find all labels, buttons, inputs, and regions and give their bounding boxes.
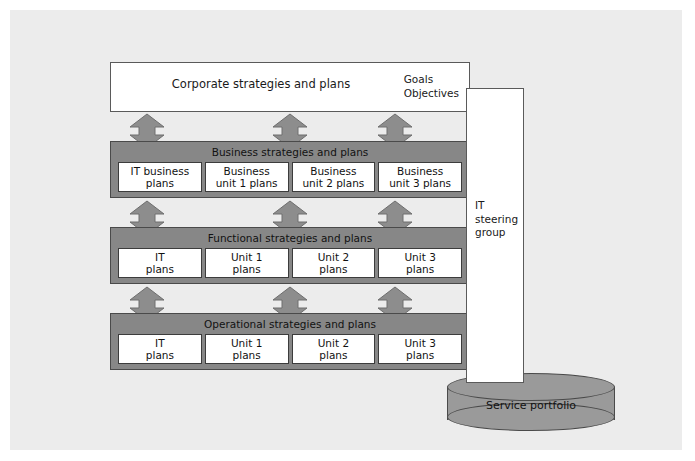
plan-cell-line1: Unit 1 (231, 337, 262, 350)
plan-cell-line1: Business (310, 165, 356, 178)
operational-strategies-cells: IT plans Unit 1 plans Unit 2 plans Unit … (118, 334, 462, 364)
business-strategies-band: Business strategies and plans IT busines… (110, 141, 470, 198)
functional-strategies-cells: IT plans Unit 1 plans Unit 2 plans Unit … (118, 248, 462, 278)
plan-cell-line2: plans (233, 349, 261, 362)
goals-text: Goals (404, 73, 459, 87)
plan-cell-line1: Unit 1 (231, 251, 262, 264)
plan-cell: IT plans (118, 334, 202, 364)
plan-cell-line2: plans (233, 263, 261, 276)
plan-cell-line2: plans (146, 177, 174, 190)
plan-cell-line2: plans (319, 349, 347, 362)
plan-cell: Unit 3 plans (378, 334, 462, 364)
plan-cell-line1: Unit 3 (404, 337, 435, 350)
plan-cell-line1: Business (397, 165, 443, 178)
objectives-text: Objectives (404, 87, 459, 101)
service-portfolio-label: Service portfolio (447, 399, 615, 412)
plan-cell-line1: Unit 3 (404, 251, 435, 264)
plan-cell: Unit 1 plans (205, 334, 289, 364)
plan-cell: IT business plans (118, 162, 202, 192)
it-steering-group-label: IT steering group (475, 199, 518, 240)
plan-cell: Unit 1 plans (205, 248, 289, 278)
goals-objectives-label: Goals Objectives (404, 73, 459, 100)
plan-cell-line2: plans (146, 349, 174, 362)
corporate-strategies-box: Corporate strategies and plans Goals Obj… (110, 62, 470, 112)
steering-line1: IT (475, 199, 518, 213)
plan-cell: Business unit 1 plans (205, 162, 289, 192)
plan-cell-line1: IT business (131, 165, 190, 178)
business-strategies-cells: IT business plans Business unit 1 plans … (118, 162, 462, 192)
plan-cell-line2: plans (406, 349, 434, 362)
functional-strategies-band: Functional strategies and plans IT plans… (110, 227, 470, 284)
plan-cell-line2: plans (319, 263, 347, 276)
plan-cell-line2: unit 3 plans (389, 177, 451, 190)
plan-cell: Unit 3 plans (378, 248, 462, 278)
it-steering-group-box: IT steering group (466, 88, 524, 383)
corporate-strategies-title: Corporate strategies and plans (111, 77, 411, 91)
operational-strategies-title: Operational strategies and plans (111, 318, 469, 330)
steering-line2: steering (475, 213, 518, 227)
functional-strategies-title: Functional strategies and plans (111, 232, 469, 244)
diagram-canvas: Corporate strategies and plans Goals Obj… (10, 10, 682, 450)
plan-cell: Business unit 3 plans (378, 162, 462, 192)
plan-cell-line1: IT (155, 337, 165, 350)
plan-cell-line2: plans (146, 263, 174, 276)
operational-strategies-band: Operational strategies and plans IT plan… (110, 313, 470, 370)
plan-cell-line2: unit 1 plans (216, 177, 278, 190)
business-strategies-title: Business strategies and plans (111, 146, 469, 158)
plan-cell-line2: plans (406, 263, 434, 276)
plan-cell: Business unit 2 plans (292, 162, 376, 192)
plan-cell-line1: Unit 2 (318, 251, 349, 264)
plan-cell-line1: Business (223, 165, 269, 178)
steering-line3: group (475, 226, 518, 240)
plan-cell: Unit 2 plans (292, 248, 376, 278)
plan-cell-line1: IT (155, 251, 165, 264)
plan-cell: Unit 2 plans (292, 334, 376, 364)
plan-cell: IT plans (118, 248, 202, 278)
plan-cell-line2: unit 2 plans (302, 177, 364, 190)
plan-cell-line1: Unit 2 (318, 337, 349, 350)
